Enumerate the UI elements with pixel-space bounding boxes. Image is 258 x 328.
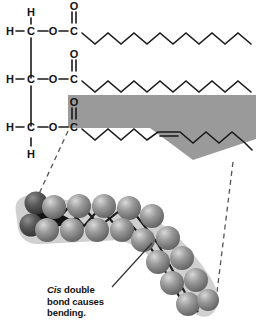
atom-label-c-carbonyl-1: C	[70, 25, 78, 37]
model-sphere-carbon	[110, 218, 134, 242]
unsaturated-fat-figure: H H C O C O H C O C O H C O C O H	[0, 0, 258, 328]
figure-background	[0, 0, 258, 328]
model-sphere-carbon	[160, 271, 184, 295]
model-sphere-carbon	[60, 218, 84, 242]
atom-label-c-carbonyl-3: C	[70, 121, 78, 133]
atom-label-h-row3: H	[6, 121, 14, 133]
model-sphere-carbon	[85, 218, 109, 242]
caption-emphasis: Cis	[47, 284, 61, 295]
model-sphere-carbon	[156, 226, 180, 250]
model-sphere-carbon	[170, 246, 194, 270]
model-sphere-carbon	[117, 196, 141, 220]
atom-label-o-carbonyl-3: O	[70, 96, 79, 108]
atom-label-c-carbonyl-2: C	[70, 73, 78, 85]
caption-line3: bending.	[47, 307, 86, 318]
atom-label-o-carbonyl-2: O	[70, 48, 79, 60]
model-sphere-carbon	[184, 268, 208, 292]
atom-label-c-row3: C	[27, 121, 35, 133]
atom-label-o-row1: O	[49, 25, 58, 37]
model-sphere-carbon	[67, 194, 91, 218]
atom-label-h-row2: H	[6, 73, 14, 85]
model-sphere-carbon	[146, 250, 170, 274]
caption: Cis double bond causes bending.	[47, 284, 151, 319]
atom-label-c-row1: C	[27, 25, 35, 37]
model-sphere-carbon	[197, 289, 219, 311]
atom-label-c-row2: C	[27, 73, 35, 85]
model-sphere-carbon	[176, 292, 200, 316]
model-sphere-carbon	[35, 218, 59, 242]
atom-label-h-top: H	[27, 6, 35, 18]
model-sphere-carbon	[140, 204, 164, 228]
model-sphere-carbon	[42, 195, 66, 219]
caption-line1-rest: double	[61, 284, 94, 295]
atom-label-o-carbonyl-1: O	[70, 0, 79, 12]
model-sphere-carbon	[131, 228, 155, 252]
atom-label-h-row1: H	[6, 25, 14, 37]
model-sphere-carbon	[92, 194, 116, 218]
atom-label-o-row3: O	[49, 121, 58, 133]
atom-label-o-row2: O	[49, 73, 58, 85]
atom-label-h-bottom: H	[27, 148, 35, 160]
caption-line2: bond causes	[47, 296, 104, 307]
